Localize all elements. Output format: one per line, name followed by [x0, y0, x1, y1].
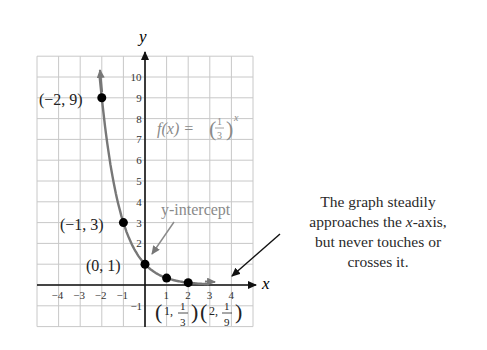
svg-text:f(x) =: f(x) = [157, 120, 194, 138]
svg-text:): ) [235, 299, 242, 324]
svg-text:8: 8 [136, 113, 142, 125]
svg-text:1: 1 [217, 116, 222, 127]
svg-text:6: 6 [136, 154, 142, 166]
svg-text:2: 2 [136, 237, 142, 249]
curve-arrow-right [205, 282, 215, 283]
svg-text:1,: 1, [164, 304, 173, 318]
svg-text:−2: −2 [95, 289, 107, 301]
svg-text:−3: −3 [73, 289, 85, 301]
svg-text:(: ( [155, 299, 162, 324]
svg-text:−1: −1 [116, 289, 128, 301]
svg-text:3: 3 [207, 289, 213, 301]
svg-text:(: ( [200, 299, 207, 324]
svg-text:9: 9 [136, 92, 142, 104]
svg-text:4: 4 [136, 196, 142, 208]
data-point [141, 260, 150, 269]
svg-text:9: 9 [224, 316, 230, 328]
data-point [162, 274, 171, 283]
svg-text:10: 10 [130, 71, 142, 83]
data-point [97, 93, 106, 102]
svg-text:−1: −1 [130, 300, 142, 312]
point-label-neg1: (−1, 3) [60, 216, 104, 234]
svg-text:3: 3 [217, 130, 222, 141]
svg-text:1: 1 [164, 289, 170, 301]
svg-text:2: 2 [185, 289, 191, 301]
point-label-neg2: (−2, 9) [39, 91, 83, 109]
point-label-1: ( 1, 1 3 ) [155, 299, 198, 328]
svg-text:3: 3 [136, 217, 142, 229]
y-intercept-label: y-intercept [161, 201, 231, 219]
asymptote-arrow [232, 234, 280, 276]
svg-text:1: 1 [224, 300, 230, 312]
svg-text:1: 1 [180, 300, 186, 312]
x-axis-label: x [261, 274, 270, 293]
svg-text:): ) [226, 116, 233, 141]
data-point [119, 218, 128, 227]
svg-text:5: 5 [136, 175, 142, 187]
y-intercept-arrow [152, 222, 174, 254]
svg-text:x: x [233, 112, 239, 123]
point-label-2: ( 2, 1 9 ) [200, 299, 242, 328]
svg-text:−4: −4 [52, 289, 64, 301]
svg-text:7: 7 [136, 133, 142, 145]
function-label: f(x) = ( 1 3 ) x [157, 112, 239, 141]
data-point [184, 278, 193, 287]
svg-text:): ) [191, 299, 198, 324]
svg-text:(: ( [209, 116, 216, 141]
svg-text:2,: 2, [209, 304, 218, 318]
asymptote-note: The graph steadily approaches the x-axis… [278, 192, 478, 272]
y-axis-label: y [137, 27, 147, 46]
point-label-0: (0, 1) [86, 257, 121, 275]
svg-text:3: 3 [180, 316, 186, 328]
function-curve [100, 76, 209, 284]
exponential-graph: x y −4−3−2−11234−12345678910 (−2, 9) (−1… [0, 0, 487, 350]
